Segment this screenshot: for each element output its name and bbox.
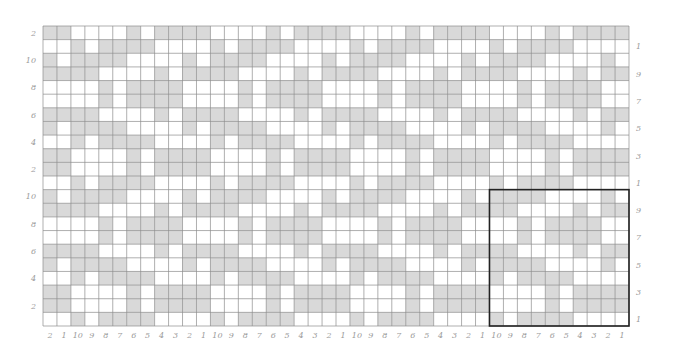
cell-empty [196, 258, 210, 272]
cell-filled [99, 135, 113, 149]
cell-empty [489, 81, 503, 95]
cell-filled [57, 285, 71, 299]
cell-empty [615, 53, 629, 67]
cell-empty [434, 53, 448, 67]
cell-filled [113, 258, 127, 272]
cell-filled [155, 108, 169, 122]
cell-filled [308, 285, 322, 299]
cell-empty [210, 94, 224, 108]
cell-empty [573, 312, 587, 326]
cell-filled [294, 108, 308, 122]
row-label-right: 3 [636, 288, 641, 297]
cell-empty [364, 94, 378, 108]
cell-filled [71, 121, 85, 135]
cell-empty [266, 53, 280, 67]
cell-empty [141, 258, 155, 272]
cell-filled [183, 190, 197, 204]
cell-empty [238, 108, 252, 122]
cell-empty [350, 285, 364, 299]
cell-filled [462, 299, 476, 313]
cell-filled [183, 258, 197, 272]
cell-filled [489, 258, 503, 272]
cell-filled [434, 162, 448, 176]
cell-filled [378, 81, 392, 95]
cell-filled [266, 26, 280, 40]
cell-empty [113, 203, 127, 217]
cell-filled [252, 190, 266, 204]
row-label-left: 10 [26, 56, 36, 65]
cell-filled [99, 94, 113, 108]
cell-empty [517, 299, 531, 313]
cell-empty [503, 40, 517, 54]
cell-filled [406, 135, 420, 149]
cell-empty [336, 258, 350, 272]
cell-empty [169, 312, 183, 326]
cell-empty [280, 108, 294, 122]
cell-empty [406, 258, 420, 272]
cell-filled [224, 244, 238, 258]
cell-filled [462, 108, 476, 122]
cell-empty [448, 271, 462, 285]
cell-filled [448, 94, 462, 108]
cell-empty [489, 217, 503, 231]
cell-filled [294, 244, 308, 258]
cell-empty [238, 149, 252, 163]
cell-filled [462, 53, 476, 67]
cell-filled [517, 94, 531, 108]
cell-empty [559, 285, 573, 299]
cell-filled [587, 231, 601, 245]
cell-filled [476, 244, 490, 258]
cell-empty [559, 108, 573, 122]
cell-empty [559, 162, 573, 176]
cell-filled [71, 40, 85, 54]
cell-empty [559, 149, 573, 163]
cell-filled [169, 94, 183, 108]
cell-empty [294, 271, 308, 285]
cell-empty [238, 67, 252, 81]
cell-empty [448, 258, 462, 272]
cell-empty [71, 81, 85, 95]
cell-filled [169, 81, 183, 95]
cell-filled [238, 271, 252, 285]
cell-filled [573, 285, 587, 299]
cell-filled [99, 81, 113, 95]
cell-empty [252, 231, 266, 245]
cell-empty [517, 108, 531, 122]
cell-empty [587, 108, 601, 122]
cell-empty [503, 231, 517, 245]
cell-filled [350, 176, 364, 190]
cell-empty [252, 26, 266, 40]
cell-filled [294, 67, 308, 81]
cell-filled [545, 312, 559, 326]
cell-filled [169, 231, 183, 245]
cell-filled [308, 81, 322, 95]
cell-filled [43, 149, 57, 163]
cell-filled [224, 258, 238, 272]
cell-filled [238, 190, 252, 204]
cell-filled [503, 203, 517, 217]
cell-empty [183, 176, 197, 190]
cell-empty [462, 231, 476, 245]
cell-filled [43, 258, 57, 272]
cell-empty [155, 121, 169, 135]
cell-filled [280, 176, 294, 190]
cell-empty [210, 217, 224, 231]
cell-empty [489, 285, 503, 299]
cell-empty [113, 299, 127, 313]
cell-empty [57, 135, 71, 149]
cell-filled [336, 108, 350, 122]
cell-empty [587, 203, 601, 217]
cell-empty [294, 258, 308, 272]
cell-empty [57, 121, 71, 135]
cell-filled [308, 162, 322, 176]
cell-filled [531, 121, 545, 135]
cell-filled [601, 108, 615, 122]
cell-empty [43, 231, 57, 245]
cell-empty [336, 231, 350, 245]
cell-empty [559, 121, 573, 135]
cell-filled [545, 135, 559, 149]
column-label: 7 [257, 331, 263, 340]
cell-filled [99, 217, 113, 231]
cell-empty [252, 94, 266, 108]
cell-filled [43, 244, 57, 258]
